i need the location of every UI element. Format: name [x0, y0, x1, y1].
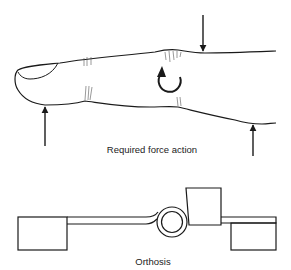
left-pad [18, 217, 67, 250]
diagram-canvas [0, 0, 291, 270]
top-caption: Required force action [107, 144, 197, 155]
lower-pad [231, 223, 276, 250]
bottom-caption: Orthosis [135, 256, 170, 267]
left-bar [67, 212, 158, 224]
upper-pad [186, 188, 221, 225]
right-bar [221, 217, 276, 223]
orthosis [18, 188, 276, 250]
finger-outline [15, 50, 276, 124]
hinge-joint-inner [162, 212, 183, 233]
skin-creases [84, 51, 181, 106]
rotation-arrow-icon [157, 66, 181, 92]
